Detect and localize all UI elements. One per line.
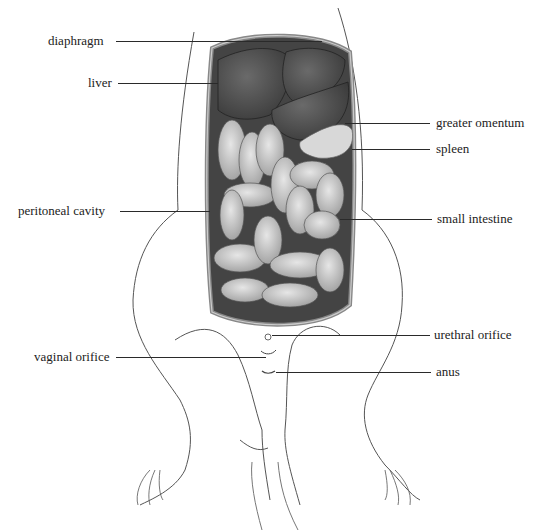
label-urethral-orifice: urethral orifice: [434, 328, 512, 342]
vaginal-orifice-mark: [261, 350, 276, 354]
leader-liver: [118, 83, 218, 84]
leader-peritoneal-cavity: [120, 211, 210, 212]
rat-dissection-illustration: [0, 0, 556, 530]
leader-greater-omentum: [345, 123, 430, 124]
label-small-intestine: small intestine: [437, 212, 512, 226]
label-greater-omentum: greater omentum: [436, 116, 524, 130]
leader-diaphragm: [116, 41, 322, 42]
label-vaginal-orifice: vaginal orifice: [34, 350, 109, 364]
leader-vaginal-orifice: [116, 357, 266, 358]
leader-small-intestine: [340, 219, 432, 220]
leader-spleen: [352, 149, 430, 150]
anus-mark: [262, 371, 275, 373]
leader-anus: [276, 372, 431, 373]
right-hind-foot: [385, 470, 410, 505]
label-peritoneal-cavity: peritoneal cavity: [18, 204, 105, 218]
label-spleen: spleen: [436, 142, 469, 156]
label-anus: anus: [436, 365, 460, 379]
urethral-orifice-mark: [265, 334, 271, 340]
anatomy-figure: diaphragm liver peritoneal cavity vagina…: [0, 0, 556, 530]
label-diaphragm: diaphragm: [48, 34, 104, 48]
leader-urethral-orifice: [272, 335, 430, 336]
label-liver: liver: [88, 76, 112, 90]
